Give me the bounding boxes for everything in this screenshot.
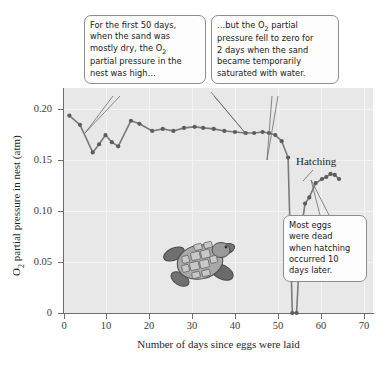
data-point bbox=[97, 142, 101, 146]
leader-line-dry-a bbox=[85, 96, 113, 133]
data-point bbox=[212, 127, 216, 131]
data-point bbox=[337, 177, 341, 181]
callout-deadeggs-line5: days later. bbox=[289, 265, 332, 275]
data-point bbox=[324, 175, 328, 179]
data-point bbox=[91, 150, 95, 154]
callout-dry-line5: nest was high… bbox=[90, 68, 156, 78]
callout-deadeggs-line3: when hatching bbox=[289, 243, 350, 253]
callout-dry-line3: mostly dry, the O bbox=[90, 43, 162, 53]
callout-saturated-line2: pressure fell to zero for bbox=[217, 33, 314, 43]
data-point bbox=[233, 130, 237, 134]
callout-dry-subscript: 2 bbox=[162, 47, 166, 55]
leader-line-saturated-b bbox=[267, 96, 278, 160]
data-point bbox=[280, 139, 284, 143]
callout-first-50-days: For the first 50 days, when the sand was… bbox=[84, 15, 206, 84]
sea-turtle-icon bbox=[160, 232, 240, 294]
callout-dry-line4: partial pressure in the bbox=[90, 56, 182, 66]
data-point bbox=[116, 144, 120, 148]
data-point bbox=[78, 123, 82, 127]
callout-most-eggs-dead: Most eggs were dead when hatching occurr… bbox=[283, 215, 367, 282]
data-point bbox=[193, 125, 197, 129]
data-point bbox=[67, 114, 71, 118]
data-point bbox=[222, 129, 226, 133]
data-point bbox=[307, 195, 311, 199]
callout-saturated-line5: saturated with water. bbox=[217, 68, 305, 78]
callout-leader-lines bbox=[85, 92, 329, 215]
data-point bbox=[314, 181, 318, 185]
data-point bbox=[273, 133, 277, 137]
data-point bbox=[161, 127, 165, 131]
data-point bbox=[333, 173, 337, 177]
data-point bbox=[320, 177, 324, 181]
callout-dry-line2: when the sand was bbox=[90, 31, 170, 41]
data-point bbox=[137, 122, 141, 126]
data-point bbox=[150, 129, 154, 133]
callout-saturated-line1a: …but the O bbox=[217, 20, 265, 30]
data-point bbox=[303, 201, 307, 205]
data-point bbox=[103, 133, 107, 137]
data-point bbox=[328, 172, 332, 176]
data-point bbox=[182, 126, 186, 130]
data-point bbox=[252, 131, 256, 135]
data-point bbox=[260, 130, 264, 134]
leader-line-deadeggs-b bbox=[311, 180, 329, 215]
figure-root: 0 0.05 0.10 0.15 0.20 0 10 20 30 40 50 6… bbox=[0, 0, 389, 365]
callout-saturated-sand: …but the O2 partial pressure fell to zer… bbox=[211, 15, 339, 84]
callout-saturated-line4: became temporarily bbox=[217, 56, 301, 66]
data-point bbox=[129, 119, 133, 123]
data-point bbox=[290, 311, 294, 315]
data-point bbox=[286, 155, 290, 159]
data-point bbox=[110, 140, 114, 144]
leader-line-hatching bbox=[303, 170, 313, 181]
callout-deadeggs-line4: occurred 10 bbox=[289, 254, 339, 264]
hatching-annotation: Hatching bbox=[296, 155, 336, 167]
callout-saturated-line1b: partial bbox=[269, 20, 298, 30]
data-point bbox=[201, 126, 205, 130]
callout-dry-line1: For the first 50 days, bbox=[90, 20, 176, 30]
callout-saturated-line3: 2 days when the sand bbox=[217, 45, 308, 55]
data-point bbox=[294, 311, 298, 315]
leader-line-dry-b bbox=[85, 96, 120, 133]
leader-line-saturated-a bbox=[267, 96, 272, 160]
data-point bbox=[171, 129, 175, 133]
callout-deadeggs-line2: were dead bbox=[289, 231, 333, 241]
callout-deadeggs-line1: Most eggs bbox=[289, 220, 331, 230]
